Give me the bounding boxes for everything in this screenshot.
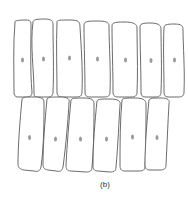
cell-nucleus [156,135,159,140]
epithelial-cell [164,24,185,97]
epithelial-cell [18,97,44,171]
cell-nucleus [54,136,57,141]
cell-nucleus [28,135,31,140]
cell-nucleus [21,57,24,62]
epithelial-cell [140,23,161,97]
epithelial-cell [120,98,146,171]
cell-nucleus [79,136,82,141]
cell-membrane [145,98,169,170]
cell-nucleus [150,58,153,63]
cell-membrane [93,99,120,172]
cell-nucleus [173,57,176,62]
epithelial-cell [93,99,120,172]
cell-membrane [43,97,69,171]
epithelial-cell [32,19,54,97]
epithelial-cell [14,20,32,97]
figure-caption: (b) [0,180,188,189]
cell-nucleus [131,134,134,139]
bottom-cell-row [18,97,169,172]
epithelial-cell [66,98,94,172]
epithelial-cell [112,22,137,97]
cell-nucleus [96,56,99,61]
cell-membrane [18,97,44,171]
epithelial-cell [145,98,169,170]
epithelial-cell [84,21,110,97]
cell-membrane [66,98,94,172]
cell-nucleus [105,136,108,141]
cell-nucleus [42,56,45,61]
epithelial-cells-diagram [0,0,188,203]
cell-membrane [120,98,146,171]
cell-nucleus [124,57,127,62]
cell-nucleus [68,55,71,60]
epithelial-cell [57,20,83,97]
top-cell-row [14,19,185,97]
epithelial-cell [43,97,69,171]
